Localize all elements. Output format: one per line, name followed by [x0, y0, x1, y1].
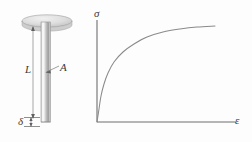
stress-strain-chart	[97, 20, 236, 122]
y-axis-label-sigma: σ	[94, 8, 99, 19]
length-label: L	[25, 64, 31, 75]
x-axis-label-epsilon: ε	[235, 115, 239, 126]
figure-root: L A δ σ ε	[0, 0, 252, 142]
length-arrow-bottom	[31, 114, 35, 119]
stress-strain-curve	[97, 26, 215, 122]
figure-canvas	[0, 0, 252, 142]
elongation-label: δ	[18, 116, 23, 127]
area-label: A	[60, 62, 67, 73]
